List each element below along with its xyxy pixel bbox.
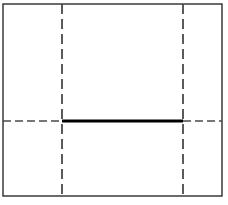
diagram-svg — [0, 0, 228, 205]
diagram-canvas — [0, 0, 228, 205]
outer-frame-border — [3, 4, 222, 196]
